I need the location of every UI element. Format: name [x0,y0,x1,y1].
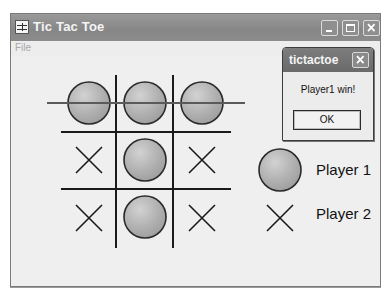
cell-1-1[interactable] [124,139,166,181]
legend-player2-label: Player 2 [316,205,371,222]
dialog-title-bar[interactable]: tictactoe [283,48,373,72]
dialog-close-button[interactable] [352,52,369,68]
dialog-title: tictactoe [289,53,338,67]
win-dialog: tictactoe Player1 win! OK [282,47,374,141]
legend-player1-label: Player 1 [316,161,371,178]
legend-player2-icon [267,205,293,231]
ok-button[interactable]: OK [293,110,361,130]
game-board [0,0,389,297]
legend-player1-icon [259,149,301,191]
cell-2-2[interactable] [189,205,215,231]
dialog-message: Player1 win! [283,84,373,95]
cell-2-0[interactable] [76,205,102,231]
cell-1-2[interactable] [189,147,215,173]
cell-1-0[interactable] [76,147,102,173]
close-icon [353,53,368,67]
cell-2-1[interactable] [124,196,166,238]
